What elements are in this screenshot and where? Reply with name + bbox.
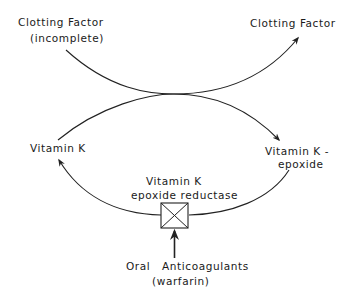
- inhibitor-label-oral: Oral: [126, 260, 150, 272]
- reductase-label-line2: epoxide reductase: [131, 189, 238, 201]
- vitamin-k-epoxide-label-line1: Vitamin K -: [265, 145, 329, 157]
- inhibitor-label-anticoagulants: Anticoagulants: [162, 260, 249, 272]
- inhibitor-label-warfarin: (warfarin): [152, 275, 210, 287]
- reductase-label-line1: Vitamin K: [146, 175, 202, 187]
- vitamin-k-label: Vitamin K: [30, 142, 86, 154]
- reductase-to-vitamin-k-arrow: [59, 160, 161, 215]
- vitamin-k-epoxide-label-line2: epoxide: [278, 158, 324, 170]
- carboxylation-arrow: [66, 38, 298, 94]
- clotting-factor-incomplete-label-line2: (incomplete): [30, 32, 104, 44]
- vitamin-k-cycle-diagram: Clotting Factor (incomplete) Clotting Fa…: [0, 0, 348, 288]
- clotting-factor-label: Clotting Factor: [250, 17, 336, 29]
- vitamin-k-to-epoxide-arrow: [58, 94, 279, 140]
- clotting-factor-incomplete-label-line1: Clotting Factor: [18, 16, 104, 28]
- inhibited-enzyme-box-icon: [161, 203, 188, 228]
